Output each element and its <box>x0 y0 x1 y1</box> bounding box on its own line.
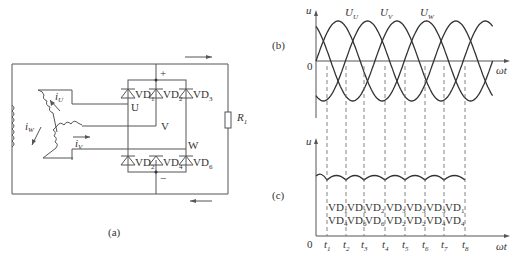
figure: R1 + − VD1 VD2 VD3 VD2 VD4 VD6 <box>0 0 517 258</box>
arrow-head-icon <box>504 234 510 238</box>
minus-label: − <box>160 172 166 184</box>
arrow-head-icon <box>314 138 318 144</box>
y-axis-label-b: u <box>306 4 312 16</box>
y-axis-label-c: u <box>306 135 312 147</box>
conduction-label: VD2 <box>386 214 406 228</box>
node-u-label: U <box>131 101 139 113</box>
tick-label-t6: t6 <box>422 238 429 253</box>
conduction-label: VD4 <box>328 214 348 228</box>
conduction-label: VD4 <box>426 214 446 228</box>
circuit: R1 + − VD1 VD2 VD3 VD2 VD4 VD6 <box>12 55 247 239</box>
current-label-w: iW <box>25 120 35 134</box>
conduction-label: VD2 <box>365 201 385 215</box>
diode-label-vd2b: VD2 <box>135 156 155 171</box>
current-label-v: iV <box>75 137 83 151</box>
arrow-head-icon <box>190 199 196 203</box>
x-axis-label-c: ωt <box>496 240 508 252</box>
conduction-label: VD3 <box>386 201 406 215</box>
series-label-v: UV <box>380 6 393 21</box>
caption-b: (b) <box>272 39 285 52</box>
caption-c: (c) <box>272 189 285 202</box>
arrow-head-icon <box>314 10 318 16</box>
conduction-label: VD1 <box>445 201 465 215</box>
diode-row-bottom: VD2 VD4 VD6 <box>121 156 213 171</box>
conduction-label: VD4 <box>445 214 465 228</box>
conduction-label: VD3 <box>426 201 446 215</box>
tick-label-t7: t7 <box>441 238 448 253</box>
arrow-head-icon <box>504 59 510 63</box>
caption-a: (a) <box>108 226 121 239</box>
origin-label-c: 0 <box>307 238 313 250</box>
origin-label-b: 0 <box>307 60 313 72</box>
wire-u <box>72 90 128 104</box>
resistor-icon <box>225 112 231 128</box>
plus-label: + <box>160 67 166 79</box>
resistor-label: R1 <box>236 111 247 126</box>
rectified-output-curve <box>316 174 465 180</box>
arrow-head-icon <box>206 55 212 59</box>
node-w-label: W <box>188 139 199 151</box>
tick-label-t1: t1 <box>324 238 331 253</box>
tick-label-t3: t3 <box>361 238 368 253</box>
x-axis-label-b: ωt <box>496 64 508 76</box>
tick-label-t8: t8 <box>462 238 469 253</box>
conduction-label: VD3 <box>406 201 426 215</box>
chart-c: (c) u 0 ωt t1t2t3t4t5t6t7t8 VD1VD4VD1VD6… <box>272 135 510 253</box>
diode-label-vd4: VD4 <box>163 156 183 171</box>
conduction-label: VD2 <box>406 214 426 228</box>
node-v-label: V <box>161 120 169 132</box>
chart-b: (b) u 0 ωt UUUVUW <box>272 4 510 118</box>
current-label-u: iU <box>55 90 64 104</box>
tick-label-t5: t5 <box>402 238 409 253</box>
tick-label-t2: t2 <box>343 238 350 253</box>
diode-label-vd6: VD6 <box>193 156 213 171</box>
series-label-w: UW <box>420 6 435 21</box>
diode-label-vd2: VD2 <box>163 88 183 103</box>
bottom-wire <box>12 64 228 194</box>
conduction-label: VD6 <box>365 214 385 228</box>
diode-label-vd3: VD3 <box>193 88 213 103</box>
conduction-label: VD1 <box>328 201 348 215</box>
series-label-u: UU <box>345 6 359 21</box>
tick-label-t4: t4 <box>382 238 389 253</box>
